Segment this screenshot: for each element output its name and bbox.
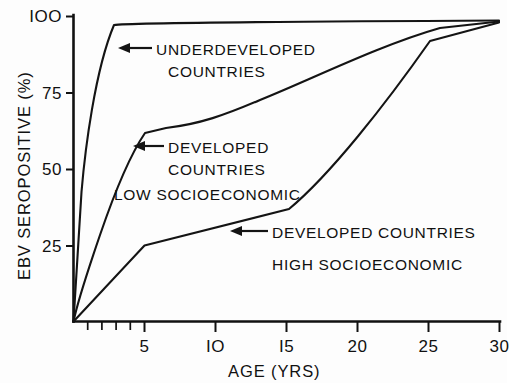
x-tick-label-30: 30 <box>479 338 513 355</box>
annotation-underdeveloped-line1: UNDERDEVELOPED <box>156 40 316 61</box>
x-tick-label-15: I5 <box>266 338 307 355</box>
curve-underdeveloped <box>74 21 500 322</box>
x-tick-label-20: 20 <box>337 338 378 355</box>
x-axis-title: AGE (YRS) <box>228 363 320 380</box>
curve-developed-high <box>74 23 500 322</box>
x-tick-label-5: 5 <box>124 338 165 355</box>
annotation-developed-high-line1: DEVELOPED COUNTRIES <box>272 223 476 244</box>
annotation-developed-low-line1: DEVELOPED <box>168 138 269 159</box>
annotation-developed-low-line3: LOW SOCIOECONOMIC <box>114 185 301 206</box>
y-axis-title: EBV SEROPOSITIVE (%) <box>16 71 33 280</box>
annotation-developed-high-line2: HIGH SOCIOECONOMIC <box>272 255 463 276</box>
annotation-arrow-developed-low <box>133 141 164 151</box>
annotation-underdeveloped-line2: COUNTRIES <box>168 62 266 83</box>
y-tick-label-100: IOO <box>18 8 62 25</box>
annotation-developed-low-line2: COUNTRIES <box>168 160 266 181</box>
annotation-arrow-developed-high <box>230 226 268 236</box>
curve-developed-low <box>74 22 500 322</box>
annotation-arrow-underdeveloped <box>118 43 152 53</box>
x-tick-label-25: 25 <box>408 338 449 355</box>
x-tick-label-10: IO <box>195 338 236 355</box>
